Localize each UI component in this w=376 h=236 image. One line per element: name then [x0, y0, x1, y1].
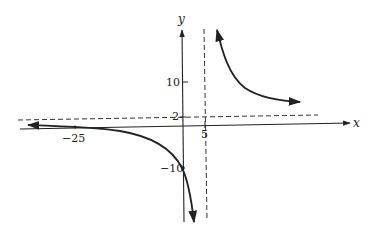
- right-branch-curve: [217, 30, 300, 102]
- rational-function-graph: y x 10 2 −10 −25 5: [0, 0, 376, 236]
- horizontal-asymptote: [18, 115, 318, 120]
- x-axis-label: x: [353, 116, 360, 130]
- tick-label-neg10: −10: [160, 162, 183, 175]
- tick-label-2: 2: [172, 110, 179, 123]
- tick-label-5: 5: [201, 128, 208, 141]
- tick-label-10: 10: [166, 76, 180, 89]
- y-axis-label: y: [177, 12, 185, 26]
- tick-label-neg25: −25: [62, 132, 85, 145]
